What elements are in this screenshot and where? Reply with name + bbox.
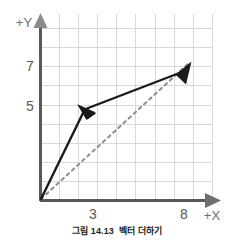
x-tick-label-8: 8 bbox=[180, 206, 188, 222]
vector-addition-chart: +Y +X 7 5 3 8 bbox=[0, 0, 234, 244]
y-axis-label: +Y bbox=[16, 15, 33, 30]
y-axis bbox=[34, 13, 48, 201]
vector-resultant bbox=[41, 63, 189, 199]
chart-gridlines bbox=[40, 14, 213, 201]
figure-vector-addition: +Y +X 7 5 3 8 그림 14.13벡터 더하기 bbox=[0, 0, 234, 244]
vector-a bbox=[41, 105, 96, 200]
y-tick-label-7: 7 bbox=[26, 58, 34, 74]
x-tick-label-3: 3 bbox=[89, 206, 97, 222]
figure-caption-text: 벡터 더하기 bbox=[119, 226, 162, 236]
x-axis-label: +X bbox=[204, 208, 221, 223]
figure-caption: 그림 14.13벡터 더하기 bbox=[0, 224, 234, 237]
y-tick-label-5: 5 bbox=[26, 98, 34, 114]
y-axis-arrow-icon bbox=[34, 13, 48, 28]
vector-b-arrowhead bbox=[176, 62, 192, 85]
figure-caption-number: 그림 14.13 bbox=[72, 226, 114, 236]
